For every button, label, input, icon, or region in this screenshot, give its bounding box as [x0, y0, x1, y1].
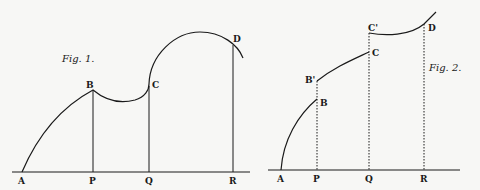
fig1-caption: Fig. 1.	[61, 53, 94, 64]
fig1-label-Q: Q	[145, 176, 153, 186]
fig1-curve	[22, 32, 243, 172]
fig2-label-C: C	[372, 48, 379, 58]
fig1-label-P: P	[89, 176, 96, 186]
figures-canvas: Fig. 1. A P Q R B C D Fig. 2. A P Q R B …	[0, 0, 480, 190]
fig2-label-B-prime: B'	[305, 75, 315, 85]
fig1-label-D: D	[233, 34, 241, 44]
fig2-caption: Fig. 2.	[428, 62, 461, 73]
fig2-label-D: D	[428, 23, 436, 33]
figure-2: Fig. 2. A P Q R B B' C C' D	[268, 12, 461, 184]
fig2-curve-AB	[281, 99, 317, 170]
fig1-label-A: A	[17, 176, 26, 186]
fig1-label-R: R	[229, 176, 237, 186]
fig2-label-P: P	[313, 174, 320, 184]
fig2-label-Q: Q	[365, 174, 373, 184]
figure-1: Fig. 1. A P Q R B C D	[12, 32, 250, 186]
fig2-label-A: A	[276, 174, 285, 184]
fig1-label-B: B	[86, 80, 94, 90]
fig1-label-C: C	[152, 80, 159, 90]
fig2-curve-CD	[369, 12, 436, 35]
fig2-label-C-prime: C'	[368, 23, 378, 33]
fig2-curve-BC	[317, 52, 369, 81]
fig2-label-B: B	[320, 98, 328, 108]
fig2-label-R: R	[420, 174, 428, 184]
